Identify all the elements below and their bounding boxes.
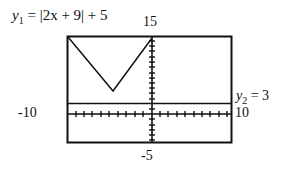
curve-y1-absolute-value [68,37,152,91]
plot-frame [68,37,232,143]
plot-area [0,0,301,175]
graphing-calculator-figure: y1 = |2x + 9| + 5 15 -10 10 y2 = 3 -5 [0,0,301,175]
